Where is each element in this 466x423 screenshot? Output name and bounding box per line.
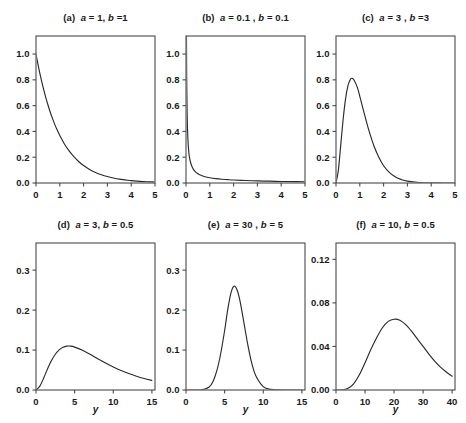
param-a-symbol: a (371, 219, 376, 230)
plot-frame (336, 243, 455, 390)
panel-letter: (d) (58, 219, 70, 230)
panel-title-d: (d) a = 3, b = 0.5 (2, 219, 189, 230)
param-b-symbol: b (409, 12, 415, 23)
x-tick-label: 0 (183, 189, 188, 200)
y-tick-label: 0.2 (166, 305, 179, 316)
y-tick-label: 1.0 (316, 48, 329, 59)
plot-panel-f: (f) a = 10, b = 0.50.000.040.080.1201020… (0, 0, 466, 423)
x-axis-label-d: y (36, 404, 155, 415)
plot-frame (336, 36, 455, 183)
y-tick-label: 0.4 (316, 126, 330, 137)
density-curve-d (36, 346, 152, 390)
plot-area-a: 0.00.20.40.60.81.0012345 (0, 0, 466, 423)
param-b-symbol: b (108, 12, 114, 23)
y-tick-label: 0.1 (166, 344, 180, 355)
y-tick-label: 0.0 (16, 177, 29, 188)
param-b-symbol: b (103, 219, 109, 230)
x-tick-label: 15 (297, 396, 308, 407)
y-tick-label: 0.2 (16, 152, 29, 163)
y-tick-label: 0.3 (16, 265, 29, 276)
y-tick-label: 0.00 (311, 384, 330, 395)
param-b-symbol: b (261, 219, 267, 230)
plot-panel-d: (d) a = 3, b = 0.50.00.10.20.3051015y (0, 0, 466, 423)
plot-panel-a: (a) a = 1, b =10.00.20.40.60.81.0012345 (0, 0, 466, 423)
param-a-symbol: a (220, 12, 225, 23)
x-tick-label: 1 (357, 189, 363, 200)
plot-area-b: 0.00.20.40.60.81.0012345 (0, 0, 466, 423)
y-tick-label: 1.0 (166, 48, 179, 59)
y-tick-label: 0.1 (16, 344, 30, 355)
x-tick-label: 0 (33, 189, 38, 200)
param-a-value: = 0.1 , (228, 12, 255, 23)
density-curve-c (336, 78, 455, 183)
x-axis-label-e: y (186, 404, 305, 415)
x-tick-label: 0 (333, 396, 338, 407)
x-tick-label: 5 (452, 189, 458, 200)
plot-frame (186, 243, 305, 390)
x-tick-label: 5 (222, 396, 228, 407)
param-a-value: = 3, (84, 219, 101, 230)
y-tick-label: 0.8 (316, 74, 329, 85)
x-tick-label: 15 (147, 396, 158, 407)
panel-title-e: (e) a = 30 , b = 5 (152, 219, 339, 230)
param-a-symbol: a (75, 219, 80, 230)
plot-frame (36, 243, 155, 390)
density-curve-f (336, 319, 452, 390)
panel-title-c: (c) a = 3 , b =3 (302, 12, 466, 23)
x-tick-label: 3 (405, 189, 410, 200)
x-tick-label: 40 (447, 396, 458, 407)
y-tick-label: 0.2 (16, 305, 29, 316)
param-b-value: = 0.5 (112, 219, 134, 230)
y-tick-label: 0.8 (166, 74, 179, 85)
y-tick-label: 0.0 (166, 177, 179, 188)
panel-title-b: (b) a = 0.1 , b = 0.1 (152, 12, 339, 23)
panel-letter: (f) (356, 219, 366, 230)
y-tick-label: 0.6 (16, 100, 29, 111)
plot-panel-c: (c) a = 3 , b =30.00.20.40.60.81.0012345 (0, 0, 466, 423)
panel-letter: (c) (362, 12, 374, 23)
x-tick-label: 3 (255, 189, 260, 200)
param-a-value: = 10, (380, 219, 402, 230)
y-tick-label: 0.4 (166, 126, 180, 137)
plot-frame (36, 36, 155, 183)
x-tick-label: 10 (108, 396, 119, 407)
y-tick-label: 1.0 (16, 48, 29, 59)
param-b-value: = 0.1 (267, 12, 289, 23)
y-tick-label: 0.4 (16, 126, 30, 137)
panel-letter: (a) (63, 12, 75, 23)
x-tick-label: 5 (72, 396, 78, 407)
x-tick-label: 10 (360, 396, 371, 407)
y-tick-label: 0.2 (316, 152, 329, 163)
x-tick-label: 1 (57, 189, 63, 200)
x-tick-label: 4 (429, 189, 435, 200)
gamma-density-figure: (a) a = 1, b =10.00.20.40.60.81.0012345(… (0, 0, 466, 423)
y-tick-label: 0.12 (311, 254, 330, 265)
plot-area-d: 0.00.10.20.3051015 (0, 0, 466, 423)
x-tick-label: 5 (152, 189, 158, 200)
param-a-symbol: a (81, 12, 86, 23)
y-tick-label: 0.0 (16, 384, 29, 395)
x-tick-label: 0 (33, 396, 38, 407)
x-tick-label: 5 (302, 189, 308, 200)
y-tick-label: 0.0 (166, 384, 179, 395)
x-tick-label: 1 (207, 189, 213, 200)
x-tick-label: 2 (81, 189, 86, 200)
param-a-value: = 3 , (387, 12, 406, 23)
param-b-value: =1 (117, 12, 128, 23)
plot-area-c: 0.00.20.40.60.81.0012345 (0, 0, 466, 423)
x-tick-label: 20 (389, 396, 400, 407)
param-b-value: = 0.5 (413, 219, 435, 230)
y-tick-label: 0.3 (166, 265, 179, 276)
x-tick-label: 4 (129, 189, 135, 200)
param-a-symbol: a (379, 12, 384, 23)
y-tick-label: 0.08 (311, 297, 330, 308)
param-b-value: =3 (418, 12, 429, 23)
y-tick-label: 0.6 (316, 100, 329, 111)
x-tick-label: 30 (418, 396, 429, 407)
plot-area-e: 0.00.10.20.3051015 (0, 0, 466, 423)
param-b-value: = 5 (269, 219, 283, 230)
plot-frame (186, 36, 305, 183)
x-tick-label: 3 (105, 189, 110, 200)
param-a-symbol: a (225, 219, 230, 230)
density-curve-b (186, 36, 305, 182)
